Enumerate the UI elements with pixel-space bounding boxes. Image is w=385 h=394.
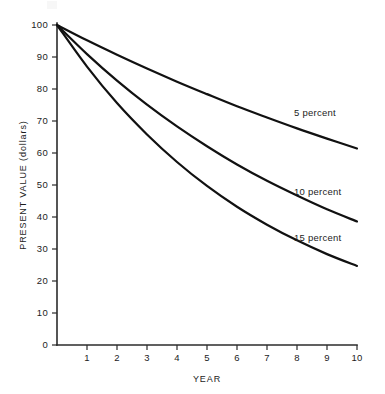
x-tick-label: 2 xyxy=(114,352,120,363)
present-value-line-chart: 0102030405060708090100 12345678910 5 per… xyxy=(0,0,385,394)
chart-axes xyxy=(57,23,357,345)
series-labels-group: 5 percent10 percent15 percent xyxy=(294,107,342,243)
series-label: 15 percent xyxy=(294,232,342,243)
chart-figure: 0102030405060708090100 12345678910 5 per… xyxy=(0,0,385,394)
x-axis-tick-labels: 12345678910 xyxy=(84,352,362,363)
x-tick-label: 10 xyxy=(351,352,362,363)
y-tick-label: 30 xyxy=(37,243,48,254)
y-tick-label: 100 xyxy=(31,19,48,30)
x-tick-label: 3 xyxy=(144,352,150,363)
y-axis-tick-labels: 0102030405060708090100 xyxy=(31,19,48,350)
x-tick-label: 8 xyxy=(294,352,300,363)
y-tick-label: 80 xyxy=(37,83,48,94)
chart-series-group xyxy=(57,25,357,266)
y-tick-label: 10 xyxy=(37,307,48,318)
y-tick-label: 0 xyxy=(42,339,48,350)
x-tick-label: 5 xyxy=(204,352,210,363)
series-label: 5 percent xyxy=(294,107,336,118)
y-tick-label: 50 xyxy=(37,179,48,190)
x-tick-label: 6 xyxy=(234,352,240,363)
x-tick-label: 7 xyxy=(264,352,270,363)
x-tick-label: 4 xyxy=(174,352,180,363)
y-tick-label: 70 xyxy=(37,115,48,126)
y-tick-label: 20 xyxy=(37,275,48,286)
x-tick-label: 1 xyxy=(84,352,90,363)
series-label: 10 percent xyxy=(294,186,342,197)
y-tick-label: 90 xyxy=(37,51,48,62)
y-tick-label: 60 xyxy=(37,147,48,158)
x-tick-label: 9 xyxy=(324,352,330,363)
y-axis-title: PRESENT VALUE (dollars) xyxy=(18,120,28,249)
y-tick-label: 40 xyxy=(37,211,48,222)
x-axis-title: YEAR xyxy=(193,374,221,384)
